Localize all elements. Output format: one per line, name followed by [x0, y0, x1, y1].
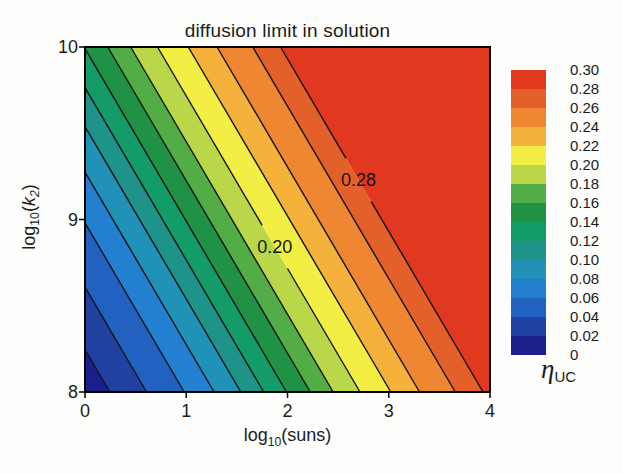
colorbar-tick-label: 0.20 [570, 157, 618, 173]
y-axis-label-text: log [19, 226, 39, 250]
colorbar-band [511, 89, 546, 108]
x-axis-label-subscript: 10 [268, 435, 282, 449]
colorbar-tick-label: 0.10 [570, 252, 618, 268]
x-axis-label-suffix: (suns) [281, 425, 331, 445]
colorbar-tick-label: 0.12 [570, 233, 618, 249]
colorbar-band [511, 317, 546, 336]
colorbar-band [511, 146, 546, 165]
contour-inline-label: 0.28 [341, 170, 376, 190]
y-tick-label: 9 [44, 210, 78, 231]
y-tick-label: 8 [44, 382, 78, 403]
colorbar-band [511, 279, 546, 298]
y-axis-label-variable: k [19, 197, 39, 206]
colorbar-label-eta: η [541, 354, 554, 384]
y-tick-label: 10 [44, 37, 78, 58]
x-tick-label: 1 [164, 401, 208, 422]
colorbar-band [511, 222, 546, 241]
colorbar-tick-label: 0.26 [570, 100, 618, 116]
colorbar-tick-label: 0 [570, 347, 618, 363]
colorbar-tick-label: 0.24 [570, 119, 618, 135]
colorbar-band [511, 336, 546, 355]
colorbar-band [511, 165, 546, 184]
colorbar-band [511, 108, 546, 127]
colorbar-band [511, 260, 546, 279]
colorbar-tick-label: 0.14 [570, 214, 618, 230]
colorbar-band [511, 298, 546, 317]
contour-inline-label: 0.20 [257, 237, 292, 257]
colorbar-tick-label: 0.02 [570, 328, 618, 344]
y-axis-label-variable-subscript: 2 [28, 190, 42, 197]
colorbar-tick-label: 0.04 [570, 309, 618, 325]
colorbar-band [511, 127, 546, 146]
colorbar-tick-label: 0.16 [570, 195, 618, 211]
x-tick-label: 3 [367, 401, 411, 422]
chart-title: diffusion limit in solution [85, 20, 490, 42]
colorbar-tick-label: 0.22 [570, 138, 618, 154]
colorbar-band [511, 203, 546, 222]
colorbar-band [511, 184, 546, 203]
colorbar-tick-label: 0.08 [570, 271, 618, 287]
x-tick-label: 0 [63, 401, 107, 422]
colorbar [511, 70, 546, 355]
colorbar-tick-label: 0.18 [570, 176, 618, 192]
y-axis-label: log10(k2) [19, 184, 40, 249]
y-axis-label-subscript: 10 [28, 212, 42, 226]
x-tick-label: 4 [468, 401, 512, 422]
y-axis-label-paren-open: ( [19, 206, 39, 212]
x-tick-label: 2 [266, 401, 310, 422]
colorbar-tick-label: 0.30 [570, 62, 618, 78]
contour-plot-area: 0.200.28 [85, 47, 490, 392]
x-axis-label-text: log [244, 425, 268, 445]
colorbar-band [511, 241, 546, 260]
x-axis-label: log10(suns) [85, 425, 490, 446]
y-axis-label-paren-close: ) [19, 184, 39, 190]
colorbar-tick-label: 0.06 [570, 290, 618, 306]
colorbar-tick-label: 0.28 [570, 81, 618, 97]
contour-figure: diffusion limit in solution 0.200.28 log… [0, 0, 623, 474]
colorbar-label-subscript: UC [554, 368, 576, 385]
colorbar-band [511, 70, 546, 89]
